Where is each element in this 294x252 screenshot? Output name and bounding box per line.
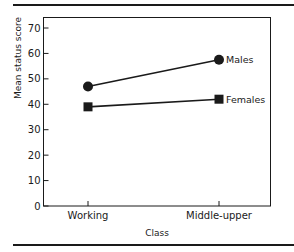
y-tick-label: 40 <box>28 99 41 110</box>
y-tick-label: 0 <box>34 201 40 212</box>
circle-marker <box>83 81 93 91</box>
x-tick-label: Working <box>68 210 109 221</box>
y-tick-label: 10 <box>28 175 41 186</box>
series-label: Males <box>226 54 254 65</box>
y-tick-label: 20 <box>28 150 41 161</box>
y-tick-label: 70 <box>28 23 41 34</box>
series-line <box>88 60 219 87</box>
x-axis-title: Class <box>145 228 169 238</box>
series-line <box>88 99 219 107</box>
line-chart: 010203040506070 WorkingMiddle-upper Male… <box>0 0 294 252</box>
y-tick-label: 60 <box>28 48 41 59</box>
square-marker <box>84 102 93 111</box>
circle-marker <box>214 55 224 65</box>
y-tick-label: 50 <box>28 73 41 84</box>
y-axis: 010203040506070 <box>28 23 49 212</box>
y-tick-label: 30 <box>28 124 41 135</box>
square-marker <box>215 95 224 104</box>
plot-frame <box>44 18 271 207</box>
series-group: MalesFemales <box>83 54 265 111</box>
series-males: Males <box>83 54 254 91</box>
x-tick-label: Middle-upper <box>186 210 253 221</box>
series-label: Females <box>226 94 265 105</box>
series-females: Females <box>84 94 266 112</box>
x-axis: WorkingMiddle-upper <box>68 201 253 221</box>
y-axis-title: Mean status score <box>13 17 23 100</box>
